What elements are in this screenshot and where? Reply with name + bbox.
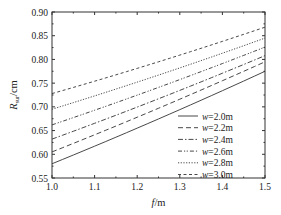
legend-label: w=3.0m bbox=[202, 170, 234, 180]
legend-label: w=2.2m bbox=[202, 123, 234, 133]
series-line-w=2.0m bbox=[52, 71, 265, 163]
x-tick-label: 1.4 bbox=[216, 182, 228, 192]
plot-frame bbox=[52, 12, 265, 178]
y-tick-label: 0.80 bbox=[31, 55, 48, 65]
y-tick-label: 0.60 bbox=[31, 150, 48, 160]
y-tick-label: 0.75 bbox=[31, 79, 48, 89]
y-tick-label: 0.90 bbox=[31, 8, 48, 18]
series-line-w=2.8m bbox=[52, 38, 265, 109]
line-chart: 1.01.11.21.31.41.50.550.600.650.700.750.… bbox=[0, 0, 281, 215]
y-tick-label: 0.85 bbox=[31, 31, 48, 41]
x-tick-label: 1.2 bbox=[131, 182, 143, 192]
x-tick-label: 1.5 bbox=[259, 182, 271, 192]
x-tick-label: 1.3 bbox=[174, 182, 186, 192]
legend-label: w=2.8m bbox=[202, 158, 234, 168]
x-tick-label: 1.1 bbox=[89, 182, 101, 192]
x-tick-label: 1.0 bbox=[46, 182, 58, 192]
series-line-w=2.4m bbox=[52, 56, 265, 139]
y-tick-label: 0.55 bbox=[31, 174, 48, 184]
y-axis-label: Rsur/cm bbox=[8, 80, 20, 111]
legend-label: w=2.6m bbox=[202, 147, 234, 157]
legend-label: w=2.4m bbox=[202, 135, 234, 145]
series-line-w=3.0m bbox=[52, 27, 265, 93]
y-tick-label: 0.65 bbox=[31, 126, 48, 136]
y-tick-label: 0.70 bbox=[31, 102, 48, 112]
legend-label: w=2.0m bbox=[202, 112, 234, 122]
x-axis-label: f/m bbox=[151, 197, 165, 208]
